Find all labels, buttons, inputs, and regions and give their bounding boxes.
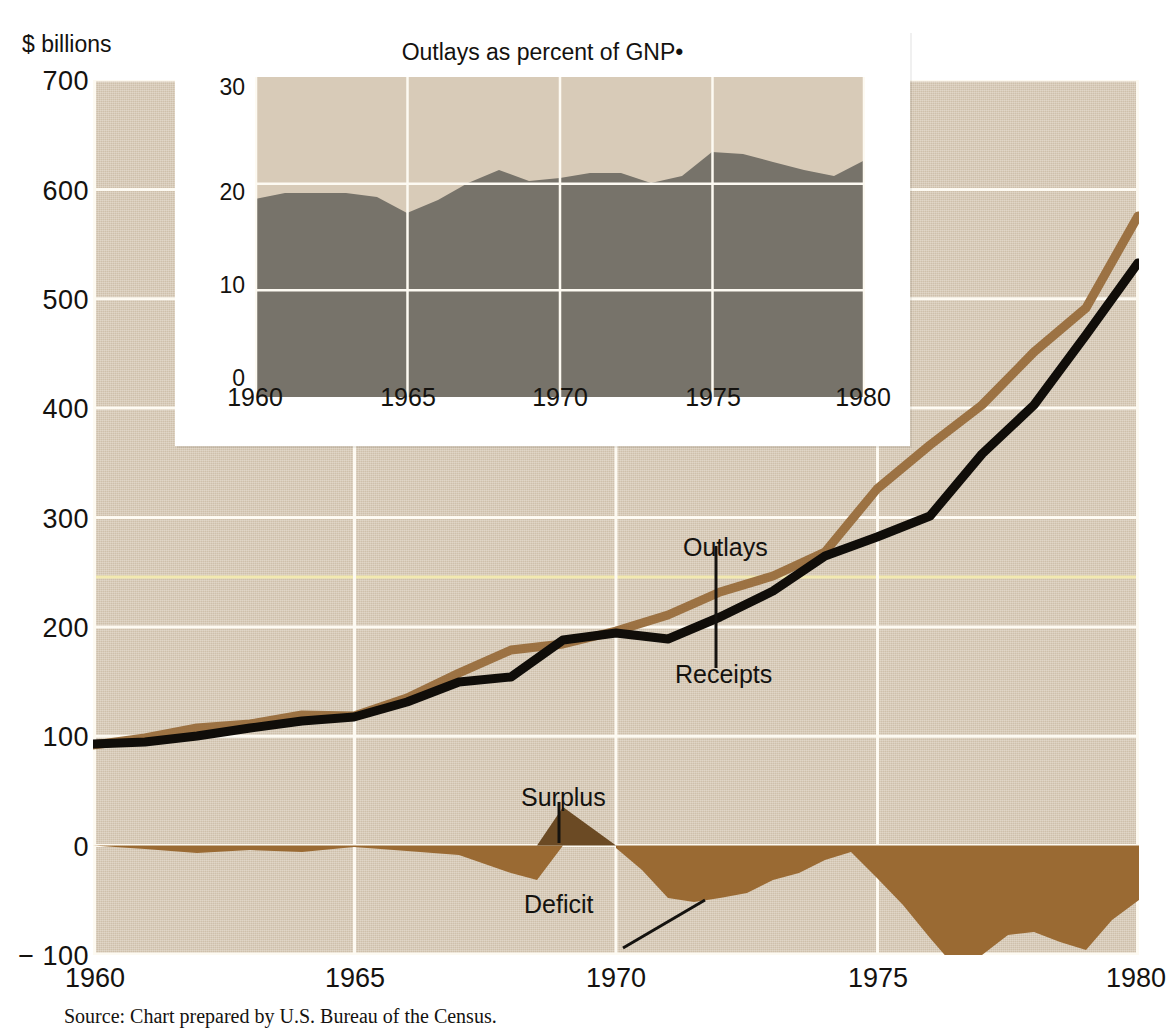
x-tick-1975: 1975 [848,963,908,994]
y-tick-0: 0 [0,832,89,863]
source-note: Source: Chart prepared by U.S. Bureau of… [64,1005,497,1028]
x-tick-1980: 1980 [1106,963,1166,994]
y-axis-title: $ billions [22,31,112,58]
inset-x-tick-1975: 1975 [685,383,741,412]
y-tick-200: 200 [0,613,89,644]
x-tick-1960: 1960 [65,963,125,994]
surplus-area [537,807,616,846]
annotation-deficit: Deficit [524,890,593,919]
y-tick-400: 400 [0,394,89,425]
annotation-surplus: Surplus [521,783,606,812]
inset-chart-title: Outlays as percent of GNP• [175,39,910,66]
inset-x-tick-1980: 1980 [835,383,891,412]
annotation-receipts: Receipts [675,660,772,689]
y-tick-600: 600 [0,176,89,207]
inset-y-tick-30: 30 [183,74,245,101]
annotation-outlays: Outlays [683,533,768,562]
inset-x-tick-1965: 1965 [380,383,436,412]
chart-page: $ billions 700 600 500 400 300 200 100 0… [0,0,1169,1033]
x-tick-1970: 1970 [586,963,646,994]
y-tick-500: 500 [0,285,89,316]
inset-y-tick-10: 10 [183,272,245,299]
y-tick-100: 100 [0,722,89,753]
inset-chart-panel: Outlays as percent of GNP• 30 20 10 0 19… [175,31,910,446]
inset-x-tick-1960: 1960 [227,383,283,412]
x-tick-1965: 1965 [325,963,385,994]
y-tick-300: 300 [0,504,89,535]
y-tick-700: 700 [0,66,89,97]
inset-y-tick-20: 20 [183,179,245,206]
inset-chart-svg [255,77,865,397]
inset-x-tick-1970: 1970 [532,383,588,412]
